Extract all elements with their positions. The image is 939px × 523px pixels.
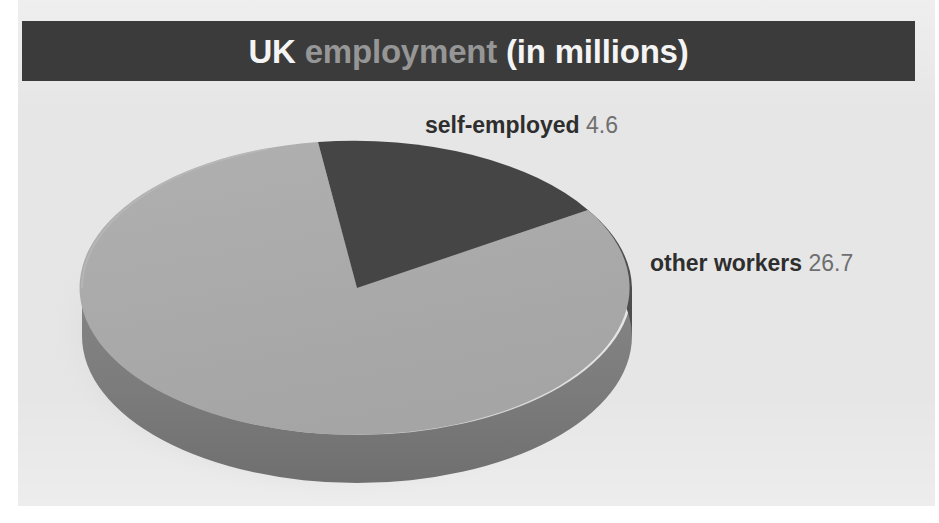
pie-label-other-workers-name: other workers [650,250,802,276]
pie-label-self-employed-name: self-employed [425,112,580,138]
pie-label-other-workers-value: 26.7 [809,250,854,276]
chart-figure: UK employment (in millions) [0,0,939,523]
pie-label-self-employed-value: 4.6 [586,112,618,138]
pie-label-other-workers: other workers 26.7 [650,252,853,275]
pie-label-self-employed: self-employed 4.6 [425,114,618,137]
